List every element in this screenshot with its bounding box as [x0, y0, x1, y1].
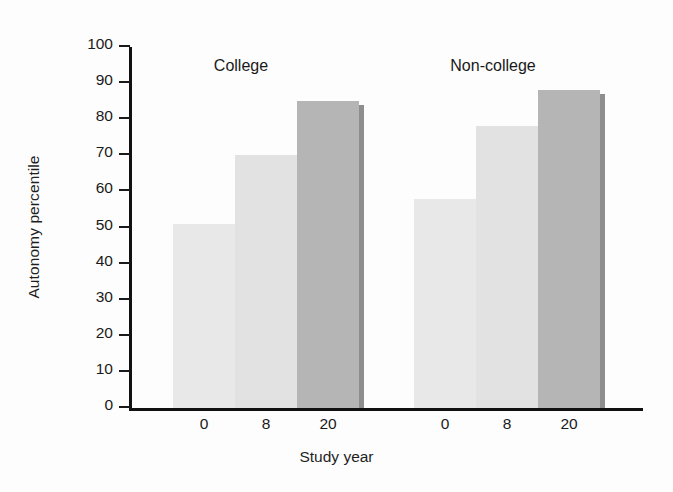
- y-tick-label-80: 80: [96, 107, 113, 125]
- y-tick-label-20: 20: [96, 324, 113, 342]
- bar-non-college-year20[interactable]: [538, 90, 600, 408]
- y-tick-label-100: 100: [87, 35, 113, 53]
- y-tick-30: 30: [119, 298, 130, 300]
- group-title-non-college: Non-college: [403, 57, 583, 75]
- bar-face: [538, 90, 600, 408]
- y-tick-label-60: 60: [96, 179, 113, 197]
- chart-figure: Autonomy percentile 100 90 80 70 60 50 4…: [0, 0, 673, 492]
- bar-college-year0[interactable]: [173, 224, 235, 408]
- bar-face: [173, 224, 235, 408]
- y-tick-80: 80: [119, 117, 130, 119]
- bar-face: [476, 126, 538, 408]
- bar-face: [297, 101, 359, 408]
- y-tick-0: 0: [119, 406, 130, 408]
- x-tick-label-non-college-8: 8: [476, 415, 538, 433]
- y-tick-10: 10: [119, 370, 130, 372]
- x-axis-label: Study year: [0, 448, 673, 466]
- y-tick-100: 100: [119, 45, 130, 47]
- y-tick-label-90: 90: [96, 71, 113, 89]
- x-tick-label-college-0: 0: [173, 415, 235, 433]
- y-tick-label-30: 30: [96, 288, 113, 306]
- bar-non-college-year0[interactable]: [414, 199, 476, 408]
- bar-non-college-year8[interactable]: [476, 126, 538, 408]
- bar-shadow: [359, 105, 364, 408]
- x-tick-label-non-college-20: 20: [538, 415, 600, 433]
- y-tick-40: 40: [119, 262, 130, 264]
- x-tick-label-college-20: 20: [297, 415, 359, 433]
- bar-face: [414, 199, 476, 408]
- y-tick-label-70: 70: [96, 143, 113, 161]
- bar-face: [235, 155, 297, 408]
- y-tick-70: 70: [119, 153, 130, 155]
- y-tick-label-0: 0: [104, 396, 113, 414]
- y-axis-line: [129, 47, 132, 408]
- x-axis-line: [129, 408, 643, 411]
- plot-area: 100 90 80 70 60 50 40 30 20 10 0: [131, 47, 643, 408]
- group-title-college: College: [151, 57, 331, 75]
- y-tick-50: 50: [119, 226, 130, 228]
- bar-shadow: [600, 94, 605, 408]
- x-tick-label-non-college-0: 0: [414, 415, 476, 433]
- y-axis-label: Autonomy percentile: [25, 107, 43, 347]
- y-tick-label-40: 40: [96, 252, 113, 270]
- bar-college-year8[interactable]: [235, 155, 297, 408]
- y-tick-label-10: 10: [96, 360, 113, 378]
- y-tick-60: 60: [119, 189, 130, 191]
- x-tick-label-college-8: 8: [235, 415, 297, 433]
- bar-college-year20[interactable]: [297, 101, 359, 408]
- y-tick-20: 20: [119, 334, 130, 336]
- y-tick-90: 90: [119, 81, 130, 83]
- y-tick-label-50: 50: [96, 216, 113, 234]
